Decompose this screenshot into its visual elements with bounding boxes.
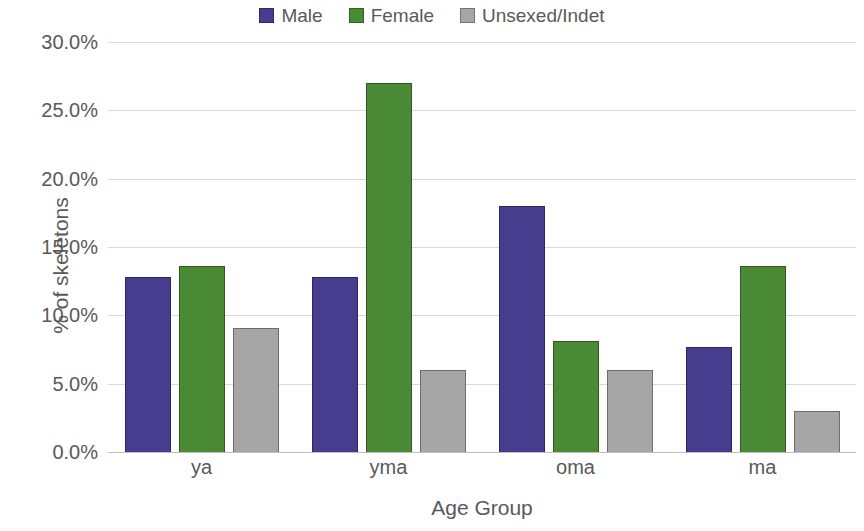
bar-group [669,42,856,452]
x-axis-tick-label: ya [108,456,295,479]
legend-label: Male [281,6,322,25]
bar-group [108,42,295,452]
y-axis-tick-label: 0.0% [52,441,98,464]
bar[interactable] [312,277,358,452]
bar[interactable] [499,206,545,452]
x-axis-tick-label: yma [295,456,482,479]
legend-swatch-icon [259,8,274,23]
x-axis-title: Age Group [108,496,856,520]
y-axis-tick-label: 5.0% [52,372,98,395]
bar[interactable] [740,266,786,452]
legend-label: Female [371,6,434,25]
bar[interactable] [125,277,171,452]
gridline [108,452,856,453]
legend-entry[interactable]: Male [259,6,322,25]
chart-legend: MaleFemaleUnsexed/Indet [0,6,864,25]
legend-swatch-icon [349,8,364,23]
legend-entry[interactable]: Unsexed/Indet [460,6,605,25]
x-axis-tick-labels: yaymaomama [108,456,856,479]
legend-label: Unsexed/Indet [482,6,605,25]
plot-area: 30.0%25.0%20.0%15.0%10.0%5.0%0.0% [108,42,856,452]
y-axis-tick-label: 10.0% [41,304,98,327]
bar[interactable] [607,370,653,452]
bar[interactable] [420,370,466,452]
x-axis-tick-label: oma [482,456,669,479]
bar-groups [108,42,856,452]
x-axis-tick-label: ma [669,456,856,479]
bar[interactable] [553,341,599,452]
bar[interactable] [233,328,279,452]
bar[interactable] [794,411,840,452]
y-axis-tick-label: 20.0% [41,167,98,190]
bar-chart: MaleFemaleUnsexed/Indet % of skeletons 3… [0,0,864,531]
y-axis-tick-label: 25.0% [41,99,98,122]
bar[interactable] [686,347,732,452]
bar-group [482,42,669,452]
y-axis-tick-label: 15.0% [41,236,98,259]
bar[interactable] [366,83,412,452]
bar-group [295,42,482,452]
legend-entry[interactable]: Female [349,6,434,25]
bar[interactable] [179,266,225,452]
legend-swatch-icon [460,8,475,23]
y-axis-tick-label: 30.0% [41,31,98,54]
